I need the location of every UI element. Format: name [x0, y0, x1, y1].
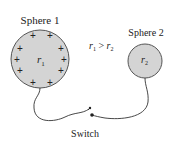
sphere-2: r2: [128, 44, 162, 78]
svg-text:+: +: [47, 77, 53, 88]
svg-text:+: +: [58, 43, 64, 54]
switch[interactable]: [88, 107, 94, 117]
svg-text:+: +: [17, 65, 23, 76]
svg-text:+: +: [47, 30, 53, 41]
svg-text:+: +: [58, 65, 64, 76]
svg-text:+: +: [17, 43, 23, 54]
sphere-1: + + + + + + + + + + r1: [11, 30, 69, 88]
sphere-2-label: Sphere 2: [128, 27, 163, 38]
radius-relation: r1 > r2: [89, 40, 113, 52]
sphere-charge-diagram: + + + + + + + + + + r1 Sphere 1 r1 > r2 …: [0, 0, 173, 147]
wire-right: [92, 78, 148, 119]
svg-text:+: +: [61, 54, 67, 65]
sphere-1-label: Sphere 1: [21, 14, 60, 26]
switch-contact-open: [89, 107, 91, 109]
svg-text:+: +: [30, 77, 36, 88]
switch-contact-pivot: [90, 113, 94, 117]
svg-text:+: +: [30, 30, 36, 41]
wire-left: [34, 88, 89, 121]
switch-label: Switch: [71, 128, 99, 139]
svg-text:+: +: [14, 54, 20, 65]
